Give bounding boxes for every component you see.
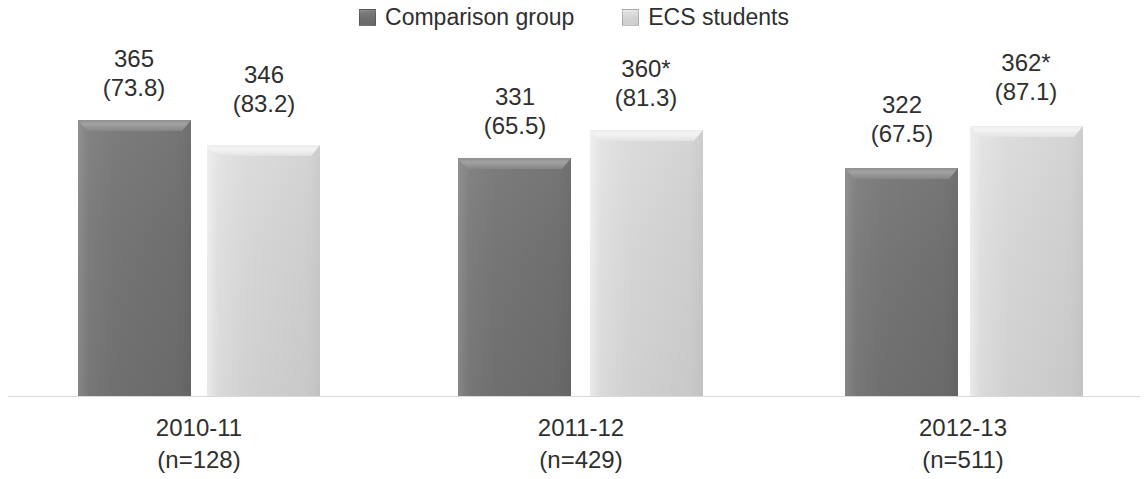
bar-top-bevel: [845, 168, 958, 179]
axis-baseline: [8, 396, 1140, 397]
value-label-secondary: (81.3): [568, 83, 724, 112]
bar-g1-comparison: [78, 120, 191, 396]
category-year: 2012-13: [840, 412, 1086, 444]
category-label-2012-13: 2012-13 (n=511): [840, 412, 1086, 476]
bar-g1-ecs: [207, 145, 320, 396]
bar-face: [590, 130, 703, 396]
bar-g2-comparison: [458, 158, 571, 396]
value-label-primary: 346: [186, 60, 342, 89]
value-label-primary: 360*: [568, 54, 724, 83]
value-label-secondary: (83.2): [186, 89, 342, 118]
category-label-2010-11: 2010-11 (n=128): [76, 412, 322, 476]
bar-top-bevel: [207, 145, 320, 156]
value-label-g3-ecs: 362* (87.1): [948, 48, 1104, 106]
bar-face: [845, 168, 958, 396]
value-label-secondary: (87.1): [948, 77, 1104, 106]
bar-face: [207, 145, 320, 396]
value-label-g1-ecs: 346 (83.2): [186, 60, 342, 118]
category-sample-size: (n=511): [840, 444, 1086, 476]
bar-top-bevel: [78, 120, 191, 131]
category-label-2011-12: 2011-12 (n=429): [458, 412, 704, 476]
category-year: 2011-12: [458, 412, 704, 444]
value-label-secondary: (65.5): [437, 111, 593, 140]
bar-g3-comparison: [845, 168, 958, 396]
category-sample-size: (n=429): [458, 444, 704, 476]
bar-face: [970, 126, 1083, 396]
bar-chart: Comparison group ECS students 365 (73.8)…: [0, 0, 1148, 479]
bar-top-bevel: [458, 158, 571, 169]
bar-top-bevel: [590, 130, 703, 141]
plot-area: 365 (73.8) 346 (83.2) 2010-11 (n=128) 33…: [0, 0, 1148, 479]
bar-g2-ecs: [590, 130, 703, 396]
bar-g3-ecs: [970, 126, 1083, 396]
value-label-primary: 362*: [948, 48, 1104, 77]
bar-face: [458, 158, 571, 396]
bar-top-bevel: [970, 126, 1083, 137]
bar-face: [78, 120, 191, 396]
value-label-secondary: (67.5): [824, 119, 980, 148]
category-year: 2010-11: [76, 412, 322, 444]
value-label-g2-ecs: 360* (81.3): [568, 54, 724, 112]
category-sample-size: (n=128): [76, 444, 322, 476]
